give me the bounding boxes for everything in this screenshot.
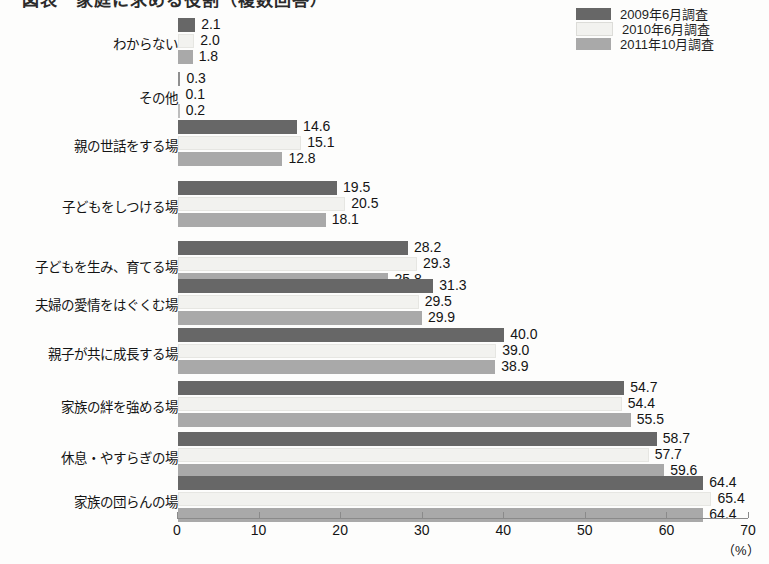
bar-value-label: 2.1 bbox=[201, 16, 220, 32]
bar-2011年10月調査 bbox=[178, 213, 326, 227]
bar-value-label: 38.9 bbox=[501, 358, 528, 374]
bar-2009年6月調査 bbox=[178, 381, 624, 395]
bar-2011年10月調査 bbox=[178, 413, 631, 427]
bar-2010年6月調査 bbox=[178, 136, 301, 150]
bar-2009年6月調査 bbox=[178, 476, 703, 490]
bar-2009年6月調査 bbox=[178, 181, 337, 195]
bar-row: 29.9 bbox=[178, 311, 738, 325]
bar-value-label: 18.1 bbox=[332, 211, 359, 227]
category-label: その他 bbox=[0, 87, 178, 107]
bar-row: 12.8 bbox=[178, 152, 738, 166]
bar-2009年6月調査 bbox=[178, 18, 195, 32]
bar-2010年6月調査 bbox=[178, 448, 649, 462]
bar-2009年6月調査 bbox=[178, 241, 408, 255]
x-axis-tick-label: 20 bbox=[320, 522, 360, 538]
bar-2010年6月調査 bbox=[178, 257, 417, 271]
bar-2009年6月調査 bbox=[178, 432, 657, 446]
bar-value-label: 14.6 bbox=[303, 118, 330, 134]
bar-value-label: 55.5 bbox=[637, 411, 664, 427]
bar-value-label: 40.0 bbox=[510, 326, 537, 342]
bar-value-label: 58.7 bbox=[663, 430, 690, 446]
bar-value-label: 12.8 bbox=[288, 150, 315, 166]
bar-value-label: 0.2 bbox=[186, 102, 205, 118]
bar-row: 2.1 bbox=[178, 18, 738, 32]
x-axis-tick-label: 50 bbox=[565, 522, 605, 538]
bar-2010年6月調査 bbox=[178, 344, 496, 358]
bar-value-label: 15.1 bbox=[307, 134, 334, 150]
bar-value-label: 54.4 bbox=[628, 395, 655, 411]
bar-value-label: 28.2 bbox=[414, 239, 441, 255]
x-axis-tick-label: 60 bbox=[646, 522, 686, 538]
bar-row: 55.5 bbox=[178, 413, 738, 427]
bar-row: 29.5 bbox=[178, 295, 738, 309]
bar-group: その他0.30.10.2 bbox=[0, 72, 769, 118]
bar-row: 0.2 bbox=[178, 104, 738, 118]
x-axis-tick bbox=[259, 512, 260, 518]
x-axis-line bbox=[177, 518, 748, 519]
bar-2010年6月調査 bbox=[178, 197, 345, 211]
bar-chart-figure: 図表 家庭に求める役割（複数回答） 2009年6月調査2010年6月調査2011… bbox=[0, 0, 769, 564]
x-axis-tick bbox=[340, 512, 341, 518]
bar-row: 54.7 bbox=[178, 381, 738, 395]
category-label: 親子が共に成長する場 bbox=[0, 343, 178, 363]
bar-2009年6月調査 bbox=[178, 120, 297, 134]
x-axis-tick bbox=[422, 512, 423, 518]
bar-row: 39.0 bbox=[178, 344, 738, 358]
x-axis-tick bbox=[666, 512, 667, 518]
bar-row: 19.5 bbox=[178, 181, 738, 195]
x-axis-tick-label: 70 bbox=[728, 522, 768, 538]
bar-value-label: 39.0 bbox=[502, 342, 529, 358]
bar-2011年10月調査 bbox=[178, 311, 422, 325]
bar-row: 64.4 bbox=[178, 508, 738, 522]
x-axis-tick-label: 0 bbox=[157, 522, 197, 538]
bar-value-label: 65.4 bbox=[717, 490, 744, 506]
bar-value-label: 29.3 bbox=[423, 255, 450, 271]
bar-group: わからない2.12.01.8 bbox=[0, 18, 769, 64]
bar-2011年10月調査 bbox=[178, 508, 703, 522]
bar-2010年6月調査 bbox=[178, 397, 622, 411]
bar-value-label: 29.5 bbox=[425, 293, 452, 309]
bar-row: 65.4 bbox=[178, 492, 738, 506]
category-label: 家族の絆を強める場 bbox=[0, 396, 178, 416]
bar-2010年6月調査 bbox=[178, 34, 194, 48]
bar-2010年6月調査 bbox=[178, 88, 180, 102]
bar-row: 29.3 bbox=[178, 257, 738, 271]
bar-row: 0.1 bbox=[178, 88, 738, 102]
bar-value-label: 2.0 bbox=[200, 32, 219, 48]
category-label: 家族の団らんの場 bbox=[0, 491, 178, 511]
bar-group: 家族の絆を強める場54.754.455.5 bbox=[0, 381, 769, 427]
bar-row: 18.1 bbox=[178, 213, 738, 227]
bar-2011年10月調査 bbox=[178, 360, 495, 374]
bar-group: 親の世話をする場14.615.112.8 bbox=[0, 120, 769, 166]
bar-row: 14.6 bbox=[178, 120, 738, 134]
bar-value-label: 1.8 bbox=[199, 48, 218, 64]
bar-row: 54.4 bbox=[178, 397, 738, 411]
bar-group: 子どもをしつける場19.520.518.1 bbox=[0, 181, 769, 227]
bar-2011年10月調査 bbox=[178, 50, 193, 64]
bar-value-label: 31.3 bbox=[439, 277, 466, 293]
bar-2010年6月調査 bbox=[178, 295, 419, 309]
bar-row: 1.8 bbox=[178, 50, 738, 64]
category-label: 子どもを生み、育てる場 bbox=[0, 256, 178, 276]
category-label: わからない bbox=[0, 33, 178, 53]
bar-value-label: 20.5 bbox=[351, 195, 378, 211]
x-axis-tick-label: 30 bbox=[402, 522, 442, 538]
bar-2009年6月調査 bbox=[178, 279, 433, 293]
category-label: 休息・やすらぎの場 bbox=[0, 447, 178, 467]
bar-value-label: 54.7 bbox=[630, 379, 657, 395]
bar-value-label: 0.3 bbox=[186, 70, 205, 86]
bar-2010年6月調査 bbox=[178, 492, 711, 506]
category-label: 夫婦の愛情をはぐくむ場 bbox=[0, 294, 178, 314]
bar-row: 31.3 bbox=[178, 279, 738, 293]
bar-value-label: 64.4 bbox=[709, 506, 736, 522]
bar-value-label: 64.4 bbox=[709, 474, 736, 490]
bar-row: 57.7 bbox=[178, 448, 738, 462]
bar-2011年10月調査 bbox=[178, 152, 282, 166]
bar-row: 64.4 bbox=[178, 476, 738, 490]
bar-row: 28.2 bbox=[178, 241, 738, 255]
x-axis-tick bbox=[748, 512, 749, 518]
bar-value-label: 29.9 bbox=[428, 309, 455, 325]
bar-group: 親子が共に成長する場40.039.038.9 bbox=[0, 328, 769, 374]
bar-row: 0.3 bbox=[178, 72, 738, 86]
x-axis-unit-label: （%） bbox=[722, 540, 760, 559]
